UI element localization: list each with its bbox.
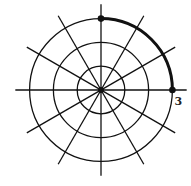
polar-grid: 3: [0, 0, 191, 186]
highlight-arc: [101, 19, 172, 90]
radius-label: 3: [174, 95, 182, 108]
marked-point: [169, 87, 176, 94]
origin-point: [98, 87, 104, 93]
polar-diagram: 3: [0, 0, 191, 186]
marked-point: [98, 15, 105, 22]
